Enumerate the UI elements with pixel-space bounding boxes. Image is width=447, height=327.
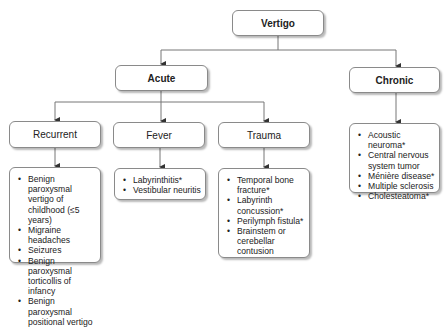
list-item: Migraine headaches	[18, 225, 96, 245]
list-item: Cholesteatoma*	[358, 191, 435, 201]
list-item: Ménière disease*	[358, 171, 435, 181]
list-item: Multiple sclerosis	[358, 181, 435, 191]
list-item: Benign paroxysmal positional vertigo	[18, 296, 96, 327]
list-item: Seizures	[18, 245, 96, 255]
list-item: Vestibular neuritis	[123, 185, 201, 195]
list-item: Central nervous system tumor	[358, 150, 435, 170]
list-item: Benign paroxysmal torticollis of infancy	[18, 256, 96, 297]
node-label: Fever	[146, 130, 172, 141]
list-chronic: Acoustic neuroma* Central nervous system…	[349, 123, 440, 193]
list-item: Acoustic neuroma*	[358, 130, 435, 150]
list-item: Benign paroxysmal vertigo of childhood (…	[18, 174, 96, 225]
node-label: Acute	[148, 73, 176, 84]
node-recurrent: Recurrent	[9, 121, 101, 148]
list-item: Brainstem or cerebellar contusion	[227, 226, 305, 257]
node-vertigo: Vertigo	[232, 10, 324, 36]
list-trauma: Temporal bone fracture* Labyrinth concus…	[218, 168, 310, 258]
node-label: Trauma	[247, 130, 281, 141]
node-trauma: Trauma	[218, 122, 310, 148]
list-item: Temporal bone fracture*	[227, 175, 305, 195]
node-label: Vertigo	[261, 18, 295, 29]
list-fever: Labyrinthitis* Vestibular neuritis	[114, 168, 206, 200]
node-chronic: Chronic	[349, 67, 440, 93]
list-recurrent: Benign paroxysmal vertigo of childhood (…	[9, 167, 101, 263]
list-item: Labyrinth concussion*	[227, 195, 305, 215]
list-item: Labyrinthitis*	[123, 175, 201, 185]
list-item: Perilymph fistula*	[227, 216, 305, 226]
node-acute: Acute	[115, 65, 208, 91]
node-label: Chronic	[376, 75, 414, 86]
node-fever: Fever	[113, 122, 205, 148]
node-label: Recurrent	[33, 129, 77, 140]
